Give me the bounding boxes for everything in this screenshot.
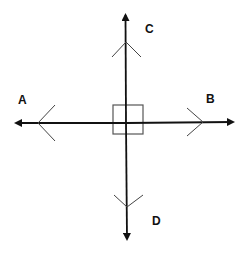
right-angle-marker <box>113 105 143 134</box>
label-d: D <box>152 215 161 227</box>
label-c: C <box>145 23 154 35</box>
perpendicular-lines-diagram <box>0 0 248 254</box>
ray-b-line <box>126 122 233 123</box>
chevron-down-icon <box>114 195 143 207</box>
label-b: B <box>206 93 215 105</box>
ray-c-line <box>126 15 127 123</box>
label-a: A <box>18 94 27 106</box>
ray-d-line <box>126 123 127 239</box>
